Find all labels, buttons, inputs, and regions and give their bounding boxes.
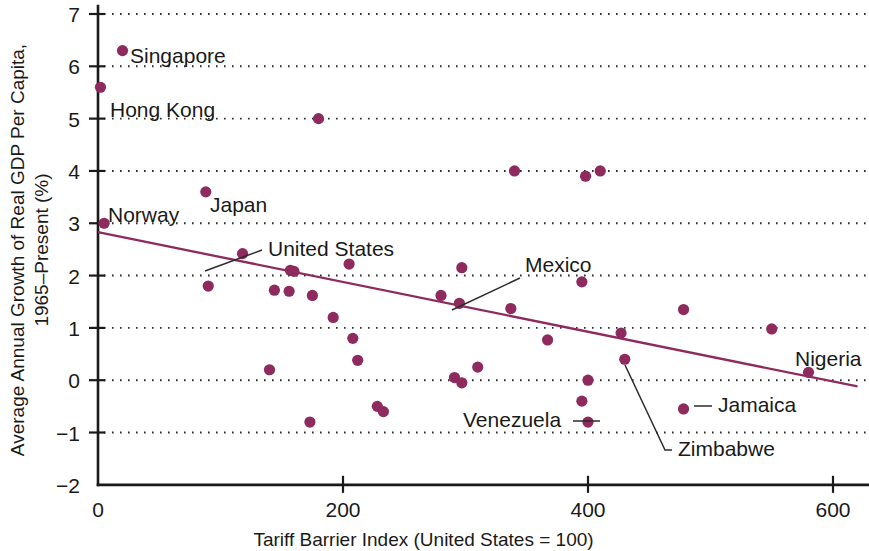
annotation-labels-group: SingaporeHong KongJapanNorwayUnited Stat… xyxy=(108,44,862,460)
data-point xyxy=(284,286,295,297)
point-label-nigeria: Nigeria xyxy=(795,347,862,370)
chart-canvas: −2−1012345670200400600 SingaporeHong Kon… xyxy=(0,0,869,551)
axis-titles-group: Tariff Barrier Index (United States = 10… xyxy=(7,44,594,550)
annotation-leaders-group xyxy=(205,250,712,450)
data-point xyxy=(288,266,299,277)
data-point xyxy=(678,403,689,414)
point-label-venezuela: Venezuela xyxy=(463,408,561,431)
data-point xyxy=(95,82,106,93)
y-axis-title-line1: Average Annual Growth of Real GDP Per Ca… xyxy=(7,44,28,456)
data-point xyxy=(347,333,358,344)
data-point xyxy=(456,262,467,273)
gridlines-group xyxy=(104,14,869,433)
data-point xyxy=(766,323,777,334)
data-point xyxy=(542,334,553,345)
data-point xyxy=(435,290,446,301)
y-tick-label: 0 xyxy=(68,369,80,392)
y-tick-label: 5 xyxy=(68,108,80,131)
data-point xyxy=(304,416,315,427)
data-point xyxy=(269,285,280,296)
x-tick-label: 200 xyxy=(325,498,360,521)
data-point xyxy=(344,258,355,269)
y-tick-label: −1 xyxy=(56,422,80,445)
data-point xyxy=(505,303,516,314)
data-point xyxy=(307,290,318,301)
data-point xyxy=(378,406,389,417)
y-tick-label: 3 xyxy=(68,212,80,235)
point-label-japan: Japan xyxy=(210,193,267,216)
y-tick-label: 1 xyxy=(68,317,80,340)
data-point xyxy=(509,165,520,176)
y-tick-label: 4 xyxy=(68,160,80,183)
y-tick-label: 2 xyxy=(68,265,80,288)
data-point xyxy=(328,312,339,323)
point-label-hong-kong: Hong Kong xyxy=(110,98,215,121)
data-point xyxy=(472,362,483,373)
data-point xyxy=(582,416,593,427)
data-point xyxy=(619,354,630,365)
annotation-leader xyxy=(625,365,672,450)
x-tick-label: 0 xyxy=(92,498,104,521)
y-tick-label: −2 xyxy=(56,474,80,497)
data-point xyxy=(580,171,591,182)
x-tick-label: 600 xyxy=(815,498,850,521)
point-label-jamaica: Jamaica xyxy=(718,393,797,416)
point-label-united-states: United States xyxy=(268,237,394,260)
point-label-mexico: Mexico xyxy=(525,253,592,276)
scatter-plot-figure: −2−1012345670200400600 SingaporeHong Kon… xyxy=(0,0,869,551)
y-tick-label: 7 xyxy=(68,3,80,26)
data-point xyxy=(203,280,214,291)
data-point xyxy=(117,45,128,56)
point-label-norway: Norway xyxy=(108,203,180,226)
data-point xyxy=(576,276,587,287)
data-point xyxy=(352,355,363,366)
data-point xyxy=(313,113,324,124)
y-axis-title-line2: 1965–Present (%) xyxy=(31,173,52,326)
x-tick-label: 400 xyxy=(570,498,605,521)
data-point xyxy=(576,396,587,407)
data-point xyxy=(456,377,467,388)
point-label-singapore: Singapore xyxy=(130,44,226,67)
data-point xyxy=(264,364,275,375)
data-point xyxy=(678,304,689,315)
data-point xyxy=(595,165,606,176)
y-tick-label: 6 xyxy=(68,55,80,78)
x-axis-title: Tariff Barrier Index (United States = 10… xyxy=(253,529,593,550)
data-point xyxy=(615,328,626,339)
data-point xyxy=(582,375,593,386)
point-label-zimbabwe: Zimbabwe xyxy=(678,437,775,460)
annotation-leader xyxy=(205,250,262,271)
